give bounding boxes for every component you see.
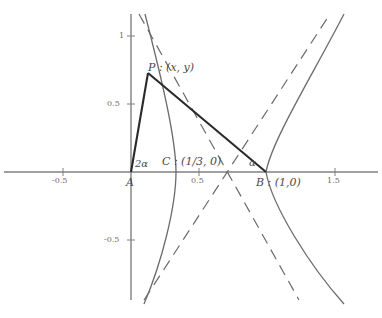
angle-label-A: 2α	[135, 158, 148, 169]
y-tick-label-1: 1	[119, 31, 124, 40]
point-label-A: A	[126, 176, 134, 189]
x-tick-label-0.5: 0.5	[191, 176, 204, 185]
y-tick-label-0.5: 0.5	[107, 99, 120, 108]
x-tick-label--0.5: -0.5	[52, 176, 67, 185]
angle-label-B: α	[249, 157, 256, 168]
hyperbola-figure: -0.5 0.5 1.5 1 0.5 -0.5 P : (x, y) A C :…	[0, 0, 382, 318]
point-label-P: P : (x, y)	[148, 61, 194, 74]
x-tick-label-1.5: 1.5	[327, 176, 340, 185]
y-tick-label--0.5: -0.5	[104, 235, 119, 244]
point-label-C: C : (1/3, 0)	[162, 155, 221, 168]
point-label-B: B : (1,0)	[256, 176, 301, 189]
hyperbola-right-branch	[266, 14, 344, 304]
